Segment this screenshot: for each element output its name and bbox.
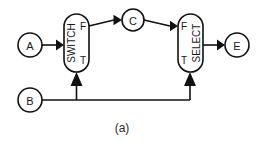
node-c-label: C [129, 15, 137, 27]
edge-switch-f-to-c [89, 15, 122, 26]
edge-a-to-switch [42, 40, 64, 51]
arrowhead-into-select-t-port [184, 72, 196, 86]
node-switch[interactable]: SWITCH F T [64, 14, 89, 72]
node-switch-port-f-label: F [80, 21, 86, 32]
node-a[interactable]: A [18, 33, 42, 57]
node-a-label: A [26, 40, 34, 52]
node-select[interactable]: SELECT F T [178, 14, 203, 72]
node-e[interactable]: E [225, 33, 249, 57]
diagram-canvas: A B SWITCH F T C SELECT F T E [0, 0, 265, 147]
edge-b-bus [42, 72, 196, 100]
edge-c-to-select-f-line [144, 20, 170, 26]
dataflow-diagram-figure: A B SWITCH F T C SELECT F T E [0, 0, 265, 147]
node-select-label: SELECT [191, 24, 202, 63]
arrowhead-into-c [114, 15, 123, 25]
edge-switch-f-to-c-line [89, 20, 114, 26]
arrowhead-into-select-f-port [170, 21, 178, 31]
arrowhead-into-switch-t-port [71, 72, 83, 86]
node-switch-label: SWITCH [66, 23, 77, 62]
node-e-label: E [233, 40, 240, 52]
edge-select-to-e [203, 40, 225, 51]
arrowhead-into-e [217, 40, 225, 51]
node-b[interactable]: B [18, 88, 42, 112]
node-select-port-t-label: T [181, 55, 187, 66]
node-select-port-f-label: F [181, 21, 187, 32]
edge-c-to-select-f [144, 20, 178, 31]
figure-caption: (a) [115, 121, 130, 135]
arrowhead-into-switch-input [56, 40, 64, 51]
node-c[interactable]: C [122, 9, 144, 31]
node-b-label: B [26, 95, 33, 107]
node-switch-port-t-label: T [80, 55, 86, 66]
